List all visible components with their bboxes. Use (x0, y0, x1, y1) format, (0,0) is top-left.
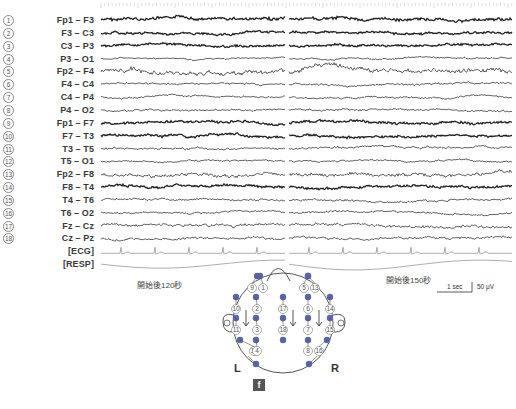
right-hemisphere-label: R (331, 362, 339, 374)
electrode-number: 5 (302, 284, 306, 291)
eeg-channel-trace (101, 184, 285, 189)
eeg-channel-trace (101, 82, 285, 85)
eeg-channel-trace (289, 119, 512, 124)
arrow-down-icon (243, 310, 249, 326)
eeg-channel-trace (289, 169, 512, 177)
eeg-channel-trace (101, 159, 285, 163)
ecg-trace (289, 247, 512, 254)
eeg-channel-trace (101, 43, 285, 48)
eeg-channel-trace (101, 31, 285, 36)
eeg-channel-trace (289, 16, 512, 22)
eeg-channel-trace (289, 82, 512, 87)
eeg-channel-trace (289, 198, 512, 203)
eeg-channel-trace (289, 134, 512, 139)
eeg-channel-trace (101, 223, 285, 227)
arrow-down-icon (316, 310, 322, 326)
eeg-channel-trace (289, 159, 512, 163)
ecg-trace (101, 247, 285, 254)
eeg-channel-trace (101, 109, 285, 112)
time-ruler (101, 3, 512, 8)
electrode-number: 11 (233, 326, 240, 333)
eeg-channel-trace (101, 15, 285, 20)
electrode-number: 14 (326, 305, 334, 312)
electrode-number: 6 (306, 305, 310, 312)
figure-label: f (253, 379, 265, 391)
eeg-channel-trace (289, 56, 512, 60)
electrode-dot (280, 337, 286, 343)
electrode-number: 2 (255, 305, 259, 312)
eeg-channel-trace (289, 43, 512, 47)
right-ear-icon (333, 314, 345, 332)
eeg-channel-trace (101, 147, 285, 150)
eeg-channel-trace (101, 94, 285, 99)
eeg-channel-trace (101, 133, 285, 138)
arrow-down-icon (290, 310, 296, 326)
eeg-channel-trace (289, 31, 512, 35)
electrode-number: 3 (255, 326, 259, 333)
electrode-number: 10 (232, 305, 240, 312)
electrode-number: 4 (255, 347, 259, 354)
eeg-channel-trace (101, 236, 285, 241)
electrode-number: 9 (250, 284, 254, 291)
electrode-number: 16 (315, 347, 323, 354)
scale-time-label: 1 sec (447, 283, 463, 290)
eeg-channel-trace (289, 94, 512, 99)
electrode-number: 7 (306, 326, 310, 333)
eeg-channel-trace (289, 223, 512, 229)
eeg-channel-trace (101, 57, 285, 61)
electrode-number: 17 (279, 305, 287, 312)
electrode-number: 15 (326, 326, 334, 333)
eeg-channel-trace (289, 185, 512, 190)
scale-amplitude-label: 50 μV (477, 283, 494, 290)
electrode-number: 18 (279, 326, 287, 333)
caption-120s: 開始後120秒 (137, 279, 182, 290)
eeg-channel-trace (289, 236, 512, 241)
electrode-number: 13 (311, 284, 319, 291)
eeg-channel-trace (289, 210, 512, 215)
caption-150s: 開始後150秒 (386, 274, 431, 285)
eeg-channel-trace (101, 198, 285, 201)
eeg-channel-trace (101, 210, 285, 215)
electrode-number: 1 (261, 284, 265, 291)
eeg-channel-trace (101, 67, 285, 76)
eeg-channel-trace (289, 145, 512, 150)
eeg-channel-trace (101, 120, 285, 125)
electrode-number: 8 (306, 347, 310, 354)
eeg-channel-trace (289, 108, 512, 112)
eeg-channel-trace (289, 63, 512, 74)
eeg-channel-trace (101, 172, 285, 178)
left-hemisphere-label: L (234, 362, 241, 374)
